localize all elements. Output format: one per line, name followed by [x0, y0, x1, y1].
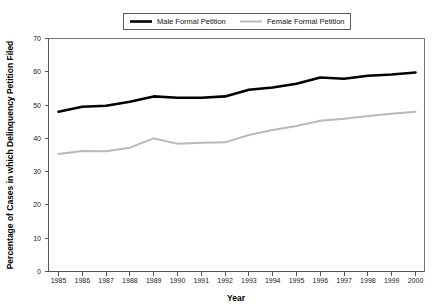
y-tick-group: [45, 39, 49, 272]
legend-label-female: Female Formal Petition: [267, 17, 345, 26]
x-tick-label: 1995: [289, 277, 305, 284]
x-tick-group: [59, 272, 416, 276]
x-tick-label: 1986: [75, 277, 91, 284]
plot-frame: [49, 39, 425, 272]
x-tick-label: 1992: [217, 277, 233, 284]
x-tick-label: 2000: [408, 277, 424, 284]
x-tick-label: 1994: [265, 277, 281, 284]
chart-figure: 0 10 20 30 40 50 60 70: [0, 0, 446, 308]
x-tick-label: 1996: [313, 277, 329, 284]
y-tick-label: 70: [33, 35, 41, 42]
x-tick-label: 1993: [241, 277, 257, 284]
x-tick-label: 1999: [384, 277, 400, 284]
y-tick-label: 20: [33, 201, 41, 208]
series-line-female-formal-petition: [59, 112, 416, 154]
x-tick-label: 1985: [51, 277, 67, 284]
y-tick-label: 40: [33, 135, 41, 142]
x-tick-label: 1997: [336, 277, 352, 284]
x-tick-label: 1987: [98, 277, 114, 284]
legend: Male Formal Petition Female Formal Petit…: [124, 14, 351, 30]
x-tick-label: 1991: [194, 277, 210, 284]
series-line-male-formal-petition: [59, 72, 416, 111]
x-axis-title: Year: [227, 293, 246, 303]
legend-label-male: Male Formal Petition: [157, 17, 226, 26]
y-tick-labels: 0 10 20 30 40 50 60 70: [33, 35, 41, 275]
x-tick-labels: 1985 1986 1987 1988 1989 1990 1991 1992 …: [51, 277, 424, 284]
y-tick-label: 30: [33, 168, 41, 175]
x-tick-label: 1989: [146, 277, 162, 284]
y-tick-label: 10: [33, 235, 41, 242]
line-chart: 0 10 20 30 40 50 60 70: [0, 0, 446, 308]
y-tick-label: 50: [33, 102, 41, 109]
x-tick-label: 1998: [360, 277, 376, 284]
y-tick-label: 60: [33, 68, 41, 75]
x-tick-label: 1990: [170, 277, 186, 284]
y-tick-label: 0: [37, 268, 41, 275]
y-axis-title: Percentage of Cases in which Delinquency…: [5, 41, 15, 270]
x-tick-label: 1988: [122, 277, 138, 284]
